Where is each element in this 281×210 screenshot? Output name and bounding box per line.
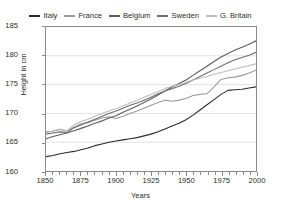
x-tick-mark-minor [123, 172, 124, 175]
legend-label: Belgium [123, 12, 150, 20]
x-tick-label: 2000 [242, 177, 272, 185]
x-tick-mark-minor [102, 172, 103, 175]
legend-item-sweden[interactable]: Sweden [157, 12, 198, 20]
legend-item-belgium[interactable]: Belgium [109, 12, 150, 20]
legend-swatch-icon [29, 15, 40, 17]
y-tick-mark [42, 26, 45, 27]
x-tick-label: 1875 [65, 177, 95, 185]
legend-swatch-icon [206, 15, 217, 17]
y-tick-label: 170 [5, 109, 18, 117]
legend-item-g-britain[interactable]: G. Britain [206, 12, 252, 20]
x-tick-mark-minor [229, 172, 230, 175]
x-tick-label: 1900 [101, 177, 131, 185]
legend-swatch-icon [64, 15, 75, 17]
x-tick-mark-minor [215, 172, 216, 175]
legend-swatch-icon [157, 15, 168, 17]
y-tick-label: 165 [5, 138, 18, 146]
y-tick-label: 180 [5, 51, 18, 59]
y-tick-label: 185 [5, 22, 18, 30]
x-tick-label: 1925 [136, 177, 166, 185]
y-tick-label: 175 [5, 80, 18, 88]
x-tick-mark-minor [193, 172, 194, 175]
x-tick-mark-minor [73, 172, 74, 175]
x-tick-mark-minor [250, 172, 251, 175]
x-tick-label: 1975 [207, 177, 237, 185]
x-tick-mark-minor [87, 172, 88, 175]
x-tick-mark-minor [172, 172, 173, 175]
x-tick-mark-minor [179, 172, 180, 175]
x-tick-mark-minor [236, 172, 237, 175]
x-axis-label: Years [0, 191, 281, 200]
x-tick-mark-minor [94, 172, 95, 175]
y-tick-label: 160 [5, 168, 18, 176]
x-tick-mark-minor [52, 172, 53, 175]
plot-area [45, 26, 257, 172]
y-tick-mark [42, 114, 45, 115]
y-tick-mark [42, 55, 45, 56]
x-tick-mark-minor [130, 172, 131, 175]
x-tick-mark-minor [144, 172, 145, 175]
legend-item-france[interactable]: France [64, 12, 102, 20]
x-tick-mark-minor [158, 172, 159, 175]
legend-item-italy[interactable]: Italy [29, 12, 57, 20]
legend-label: France [78, 12, 102, 20]
legend-label: Sweden [171, 12, 198, 20]
x-tick-label: 1950 [171, 177, 201, 185]
y-tick-mark [42, 84, 45, 85]
x-tick-mark-minor [66, 172, 67, 175]
x-tick-mark-minor [165, 172, 166, 175]
x-tick-mark-minor [200, 172, 201, 175]
x-tick-mark-minor [243, 172, 244, 175]
x-tick-mark-minor [109, 172, 110, 175]
legend-label: Italy [43, 12, 57, 20]
chart-figure: ItalyFranceBelgiumSwedenG. Britain Heigh… [0, 0, 281, 210]
series-line-sweden [46, 52, 256, 134]
x-tick-mark-minor [59, 172, 60, 175]
y-tick-mark [42, 143, 45, 144]
plot-lines [46, 27, 256, 171]
x-tick-label: 1850 [30, 177, 60, 185]
legend-swatch-icon [109, 15, 120, 17]
x-tick-mark-minor [137, 172, 138, 175]
y-axis-label: Height in cm [19, 30, 28, 120]
legend-label: G. Britain [220, 12, 252, 20]
x-tick-mark-minor [208, 172, 209, 175]
chart-legend: ItalyFranceBelgiumSwedenG. Britain [0, 9, 281, 23]
